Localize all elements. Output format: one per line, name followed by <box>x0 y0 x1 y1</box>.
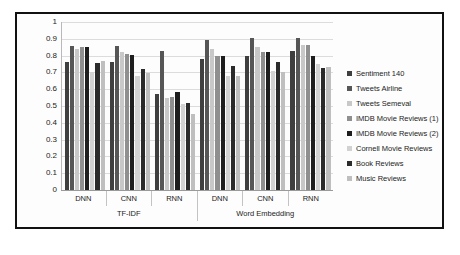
bar <box>271 71 275 190</box>
bar <box>160 51 164 190</box>
bar <box>276 62 280 190</box>
bar <box>321 68 325 190</box>
category-label: CNN <box>107 191 153 206</box>
bar <box>296 38 300 190</box>
bar <box>191 114 195 190</box>
major-group-label: TF-IDF <box>61 206 198 221</box>
y-axis-tick: 1 <box>53 18 57 26</box>
legend-item: Tweets Semeval <box>347 96 459 111</box>
bar <box>200 59 204 190</box>
legend-item: Tweets Airline <box>347 81 459 96</box>
bar <box>135 76 139 190</box>
bar <box>101 61 105 190</box>
legend-swatch-icon <box>347 116 352 121</box>
plot-axes <box>61 22 333 190</box>
bar <box>236 76 240 190</box>
y-axis-tick: 0.1 <box>46 169 57 177</box>
major-group-label: Word Embedding <box>198 206 334 221</box>
legend-swatch-icon <box>347 161 352 166</box>
bar <box>125 54 129 190</box>
category-label: RNN <box>152 191 198 206</box>
bar <box>90 72 94 190</box>
bar <box>245 56 249 190</box>
bar <box>255 47 259 190</box>
bar <box>115 46 119 190</box>
legend-item: Sentiment 140 <box>347 66 459 81</box>
y-axis-tick: 0.6 <box>46 85 57 93</box>
category-axis: DNNCNNRNNDNNCNNRNN TF-IDFWord Embedding <box>61 190 333 226</box>
bar-group <box>243 22 288 190</box>
bar <box>120 52 124 190</box>
bar <box>175 92 179 190</box>
bar <box>75 49 79 190</box>
category-label: DNN <box>61 191 107 206</box>
legend-swatch-icon <box>347 71 352 76</box>
bar <box>205 40 209 190</box>
y-axis-tick: 0.2 <box>46 152 57 160</box>
bar <box>266 52 270 190</box>
bar <box>95 63 99 190</box>
legend-label: IMDB Movie Reviews (1) <box>356 114 439 123</box>
legend-item: IMDB Movie Reviews (2) <box>347 126 459 141</box>
bar <box>85 47 89 190</box>
bar <box>301 45 305 190</box>
legend-label: Tweets Semeval <box>356 99 411 108</box>
legend-swatch-icon <box>347 146 352 151</box>
y-axis-tick: 0.5 <box>46 102 57 110</box>
bar-group <box>107 22 152 190</box>
legend-swatch-icon <box>347 131 352 136</box>
category-label: DNN <box>198 191 244 206</box>
bar <box>311 56 315 190</box>
bar-group <box>152 22 197 190</box>
legend-swatch-icon <box>347 86 352 91</box>
bar <box>316 64 320 190</box>
bar <box>65 62 69 190</box>
bar-group <box>198 22 243 190</box>
chart-frame: 10.90.80.70.60.50.40.30.20.10 DNNCNNRNND… <box>15 12 444 229</box>
category-label: RNN <box>289 191 334 206</box>
bar <box>170 97 174 190</box>
bar <box>250 38 254 190</box>
legend-label: Sentiment 140 <box>356 69 404 78</box>
plot-area: 10.90.80.70.60.50.40.30.20.10 DNNCNNRNND… <box>37 22 337 212</box>
bar <box>70 46 74 190</box>
y-axis-tick: 0.9 <box>46 35 57 43</box>
y-axis-tick: 0.8 <box>46 52 57 60</box>
bar-group <box>62 22 107 190</box>
bar <box>210 49 214 190</box>
bar <box>326 67 330 190</box>
legend-item: IMDB Movie Reviews (1) <box>347 111 459 126</box>
legend-item: Cornell Movie Reviews <box>347 141 459 156</box>
category-row: DNNCNNRNNDNNCNNRNN <box>61 191 333 206</box>
y-axis-tick: 0 <box>53 186 57 194</box>
chart-figure: 10.90.80.70.60.50.40.30.20.10 DNNCNNRNND… <box>0 0 460 255</box>
bar <box>215 56 219 190</box>
bar <box>181 104 185 190</box>
bar <box>110 62 114 190</box>
bar <box>281 72 285 190</box>
bar <box>165 98 169 190</box>
category-label: CNN <box>243 191 289 206</box>
legend-label: Cornell Movie Reviews <box>356 144 432 153</box>
legend-item: Book Reviews <box>347 156 459 171</box>
bar <box>261 52 265 190</box>
bar <box>141 69 145 190</box>
y-axis-tick: 0.7 <box>46 68 57 76</box>
legend-label: Book Reviews <box>356 159 404 168</box>
legend-item: Music Reviews <box>347 171 459 186</box>
y-axis-labels: 10.90.80.70.60.50.40.30.20.10 <box>37 22 59 190</box>
bar <box>80 47 84 190</box>
bar <box>155 94 159 190</box>
y-axis-tick: 0.4 <box>46 119 57 127</box>
bar <box>306 45 310 190</box>
bar <box>146 73 150 190</box>
y-axis-tick: 0.3 <box>46 136 57 144</box>
legend-label: Music Reviews <box>356 174 406 183</box>
bar <box>290 51 294 190</box>
bar <box>226 76 230 190</box>
legend-swatch-icon <box>347 176 352 181</box>
chart-legend: Sentiment 140Tweets AirlineTweets Semeva… <box>347 66 459 186</box>
legend-label: Tweets Airline <box>356 84 402 93</box>
bar <box>221 56 225 190</box>
legend-label: IMDB Movie Reviews (2) <box>356 129 439 138</box>
